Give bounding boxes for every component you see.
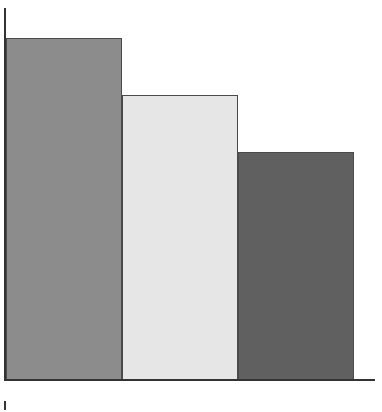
- bar-1: [6, 38, 122, 380]
- bar-2: [122, 95, 238, 380]
- bar-chart: [0, 0, 382, 412]
- x-axis-line: [4, 379, 375, 381]
- axis-tick-mark: [4, 401, 6, 410]
- bar-3: [238, 152, 354, 380]
